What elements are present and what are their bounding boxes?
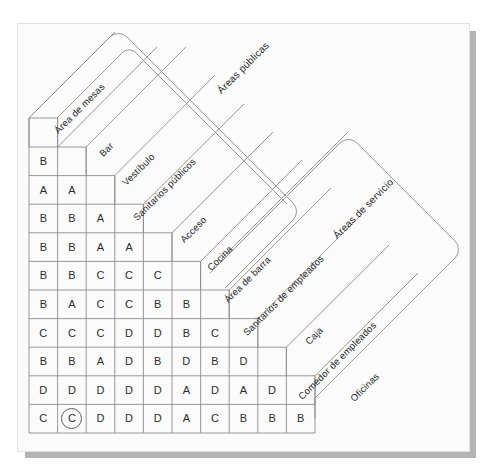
matrix-cell: D <box>229 347 258 376</box>
matrix-cell: D <box>86 376 115 405</box>
matrix-cell: B <box>143 290 172 319</box>
matrix-cell: A <box>86 347 115 376</box>
matrix-cell: D <box>172 347 201 376</box>
matrix-cell: B <box>29 261 58 290</box>
matrix-cell: D <box>115 376 144 405</box>
matrix-cell: D <box>115 347 144 376</box>
matrix-cell: B <box>58 347 87 376</box>
matrix-cell: A <box>229 376 258 405</box>
matrix-cell: C <box>86 290 115 319</box>
matrix-cell: B <box>229 404 258 433</box>
matrix-cell: B <box>286 404 315 433</box>
matrix-cell: A <box>172 376 201 405</box>
matrix-cell: D <box>115 404 144 433</box>
matrix-cell: C <box>115 261 144 290</box>
matrix-cell: B <box>58 204 87 233</box>
matrix-cell: B <box>143 347 172 376</box>
matrix-cell: B <box>258 404 287 433</box>
matrix-cell: C <box>58 319 87 348</box>
matrix-cell: B <box>29 147 58 176</box>
matrix-cell: C <box>29 319 58 348</box>
matrix-cell: A <box>86 204 115 233</box>
matrix-cell: C <box>29 404 58 433</box>
matrix-cell: D <box>115 319 144 348</box>
matrix-cell: B <box>172 319 201 348</box>
matrix-cell: D <box>58 376 87 405</box>
matrix-cell: A <box>115 233 144 262</box>
matrix-cell: C <box>201 404 230 433</box>
matrix-cell: D <box>86 404 115 433</box>
matrix-cell: D <box>143 404 172 433</box>
matrix-cell: B <box>201 347 230 376</box>
matrix-cell: D <box>29 376 58 405</box>
matrix-cell: A <box>29 176 58 205</box>
matrix-cell: B <box>172 290 201 319</box>
matrix-cell: C <box>201 319 230 348</box>
matrix-cell: B <box>58 261 87 290</box>
matrix-cell: A <box>58 290 87 319</box>
matrix-cell: B <box>29 233 58 262</box>
matrix-cell: D <box>201 376 230 405</box>
matrix-cell: A <box>58 176 87 205</box>
matrix-cell: C <box>86 319 115 348</box>
matrix-cell: D <box>143 319 172 348</box>
matrix-cell: C <box>86 261 115 290</box>
matrix-cell: C <box>58 404 87 433</box>
matrix-cell: B <box>58 233 87 262</box>
matrix-cell: B <box>29 204 58 233</box>
matrix-cell: B <box>29 347 58 376</box>
matrix-cell: C <box>143 261 172 290</box>
matrix-cell: D <box>258 376 287 405</box>
matrix-cell: B <box>29 290 58 319</box>
matrix-cell: C <box>115 290 144 319</box>
matrix-cell: D <box>143 376 172 405</box>
matrix-cell: A <box>172 404 201 433</box>
matrix-cell: A <box>86 233 115 262</box>
diagram-page: Área de mesas Bar Vestíbulo Sanitarios p… <box>0 0 485 473</box>
